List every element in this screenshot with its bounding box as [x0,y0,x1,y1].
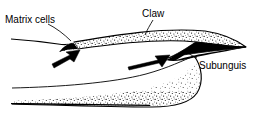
claw-anatomy-figure: Matrix cells Claw Subunguis [0,0,259,115]
label-subunguis: Subunguis [199,60,246,71]
label-claw: Claw [142,8,164,19]
label-matrix-cells: Matrix cells [5,14,55,25]
